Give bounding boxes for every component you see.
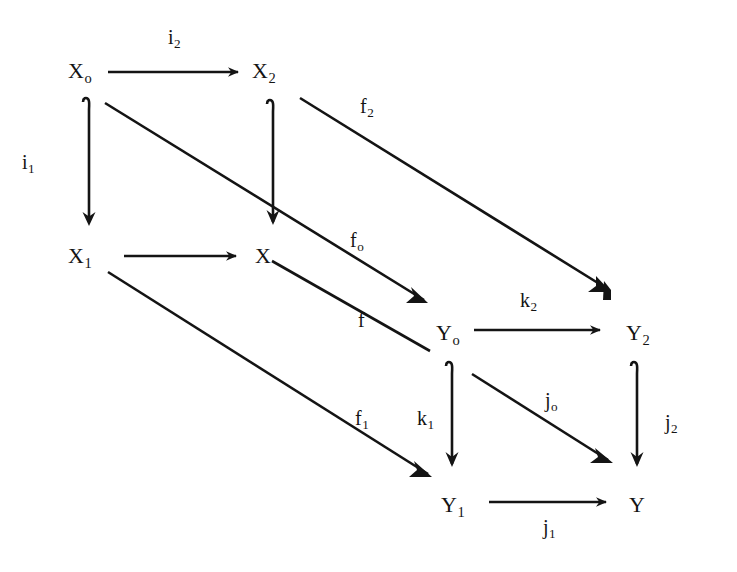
- arrow-k1: [446, 362, 459, 467]
- morphism-label-i1: i1: [22, 152, 34, 172]
- arrow-j2: [631, 362, 644, 467]
- arrow-f2: [300, 98, 611, 300]
- object-label-Y2: Y2: [626, 322, 649, 344]
- morphism-label-j1: j1: [543, 517, 555, 537]
- arrow-j0: [472, 374, 613, 463]
- object-label-X1: X1: [68, 245, 91, 267]
- arrow-i1: [83, 98, 96, 226]
- morphism-label-f2: f2: [360, 96, 373, 116]
- object-label-Y0: Yo: [436, 322, 459, 344]
- morphism-label-k2: k2: [520, 290, 537, 310]
- morphism-label-i2: i2: [168, 27, 180, 47]
- commutative-diagram-figure: Xo X2 X1 X Yo Y2 Y1 Y i2 i1 fo f f2 f1 k…: [0, 0, 737, 572]
- morphism-label-k1: k1: [417, 408, 434, 428]
- morphism-label-j0: jo: [545, 390, 557, 410]
- object-label-Y: Y: [629, 494, 645, 516]
- object-label-X0: Xo: [68, 60, 91, 82]
- morphism-label-f1: f1: [355, 408, 368, 428]
- morphism-label-j2: j2: [665, 412, 677, 432]
- arrow-f: [272, 261, 430, 351]
- diagram-arrow-canvas: [0, 0, 737, 572]
- morphism-label-f0: fo: [350, 230, 363, 250]
- arrow-f1: [108, 272, 432, 477]
- object-label-X: X: [255, 245, 271, 267]
- object-label-X2: X2: [252, 60, 275, 82]
- arrow-f0: [105, 103, 428, 303]
- object-label-Y1: Y1: [441, 494, 464, 516]
- morphism-label-f: f: [358, 310, 365, 330]
